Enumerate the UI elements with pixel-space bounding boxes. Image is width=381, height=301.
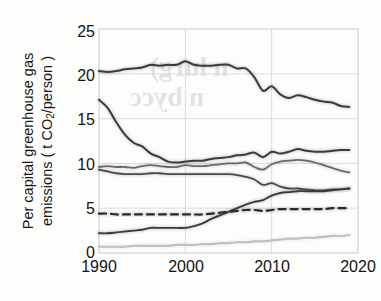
chart-line-halos (99, 61, 349, 247)
chart-series-lines (99, 61, 349, 247)
line-chart-plot (0, 0, 381, 301)
